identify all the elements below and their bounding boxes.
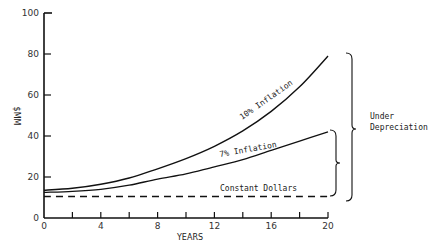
under-depreciation-label-line1: Under	[370, 112, 394, 121]
y-ticks	[44, 54, 51, 177]
x-tick-label: 16	[265, 221, 277, 231]
series-10-inflation-line	[44, 56, 328, 190]
y-axis-title: $MM	[12, 107, 21, 126]
inflation-depreciation-chart: 020406080100 048121620 $MM YEARS 10% Inf…	[0, 0, 434, 249]
y-tick-label: 100	[22, 8, 39, 18]
y-tick-label: 60	[28, 90, 40, 100]
label-7-inflation: 7% Inflation	[219, 140, 278, 159]
y-tick-label: 80	[28, 49, 40, 59]
x-ticks	[72, 212, 328, 218]
x-tick-label: 0	[41, 221, 47, 231]
under-depreciation-label-line2: Depreciation	[370, 123, 428, 132]
x-axis-title: YEARS	[176, 233, 203, 242]
x-tick-label: 20	[322, 221, 334, 231]
brace-large	[346, 53, 356, 201]
x-tick-label: 8	[155, 221, 161, 231]
x-tick-labels: 048121620	[41, 221, 334, 231]
y-tick-label: 40	[28, 131, 40, 141]
label-constant-dollars: Constant Dollars	[220, 184, 297, 193]
y-tick-label: 20	[28, 172, 40, 182]
brace-small	[330, 130, 340, 196]
x-tick-label: 4	[98, 221, 104, 231]
x-tick-label: 12	[209, 221, 220, 231]
y-tick-labels: 020406080100	[22, 8, 39, 223]
y-tick-label: 0	[33, 213, 39, 223]
